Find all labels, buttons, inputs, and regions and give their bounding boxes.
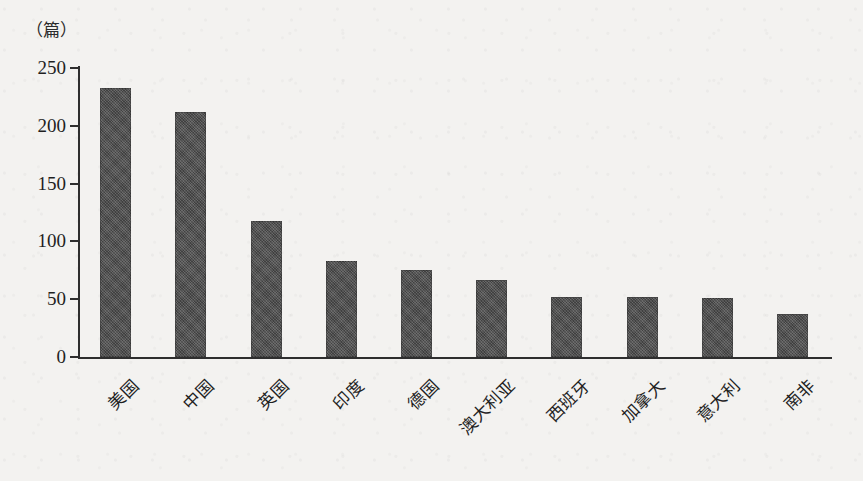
x-axis-category-label: 中国 <box>176 372 218 414</box>
x-axis-category-label: 西班牙 <box>540 372 595 427</box>
y-axis-tick-label-150: 150 <box>10 173 66 195</box>
bar <box>326 261 357 357</box>
bar <box>476 280 507 357</box>
y-axis-tick-label-50: 50 <box>10 288 66 310</box>
y-axis-tick-label-0: 0 <box>10 346 66 368</box>
x-axis-category-label: 加拿大 <box>615 372 670 427</box>
y-axis-tick-label-100: 100 <box>10 230 66 252</box>
x-axis-category-label: 德国 <box>402 372 444 414</box>
bar <box>702 298 733 357</box>
bar <box>251 221 282 357</box>
y-axis-tick-labels: 050100150200250 <box>0 0 66 481</box>
x-axis-category-label: 南非 <box>778 372 820 414</box>
y-axis-tick-label-250: 250 <box>10 57 66 79</box>
bar <box>777 314 808 357</box>
bar <box>401 270 432 357</box>
y-axis-tick-label-200: 200 <box>10 115 66 137</box>
bar <box>100 88 131 357</box>
bar-chart-figure: （篇） 050100150200250 美国中国英国印度德国澳大利亚西班牙加拿大… <box>0 0 863 481</box>
x-axis-category-label: 英国 <box>251 372 293 414</box>
bar <box>175 112 206 357</box>
x-axis-category-label: 澳大利亚 <box>452 372 519 439</box>
x-axis-category-label: 美国 <box>101 372 143 414</box>
x-axis-category-label: 意大利 <box>690 372 745 427</box>
bar <box>627 297 658 357</box>
x-axis-category-label: 印度 <box>326 372 368 414</box>
bar <box>551 297 582 357</box>
x-axis-line <box>78 357 832 359</box>
plot-area <box>78 68 830 357</box>
